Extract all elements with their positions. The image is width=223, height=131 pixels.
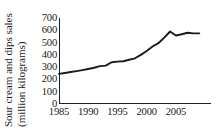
data-series-line [59, 18, 211, 104]
x-axis-tick-labels: 19851990199520002005 [0, 104, 223, 131]
y-axis-tick-label: 200 [42, 74, 57, 84]
y-axis-tick-label: 400 [42, 50, 57, 60]
y-axis-tick-label: 100 [42, 87, 57, 97]
x-axis-tick-label: 1995 [107, 106, 127, 117]
y-axis-tick-label: 600 [42, 25, 57, 35]
y-axis-tick-label: 700 [42, 13, 57, 23]
y-axis-tick-label: 500 [42, 38, 57, 48]
x-axis-tick-label: 1985 [49, 106, 69, 117]
line-chart: Sour cream and dips sales (million kilog… [0, 0, 223, 131]
y-axis-tick-label: 300 [42, 62, 57, 72]
x-axis-tick-label: 2005 [166, 106, 186, 117]
x-axis-tick-label: 1990 [78, 106, 98, 117]
x-axis-tick-label: 2000 [136, 106, 156, 117]
